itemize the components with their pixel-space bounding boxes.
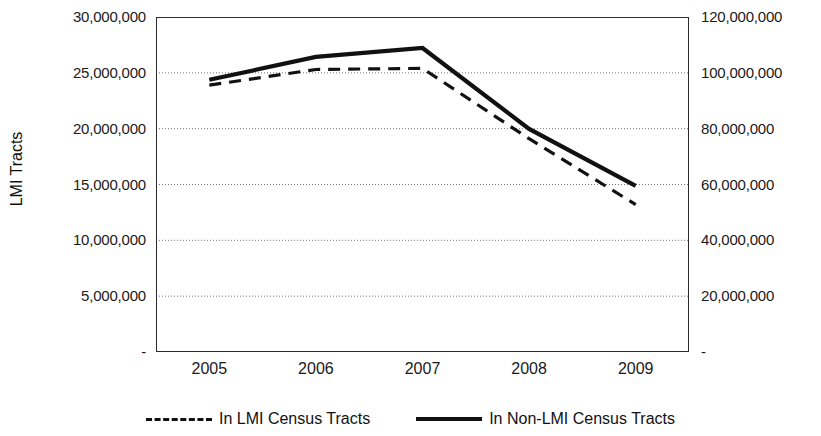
chart-legend: In LMI Census TractsIn Non-LMI Census Tr… [0,402,821,436]
x-axis-tick-label: 2009 [596,360,676,378]
y-axis-right-tick-label: 40,000,000 [701,231,774,248]
y-axis-right-tick-label: 60,000,000 [701,176,774,193]
y-axis-left-tick-label: 10,000,000 [0,231,146,248]
y-axis-left-tick-label: 25,000,000 [0,64,146,81]
y-axis-left-tick-label: 20,000,000 [0,120,146,137]
x-axis-tick-label: 2008 [489,360,569,378]
y-axis-left-tick-label: - [0,343,146,360]
legend-label: In LMI Census Tracts [219,410,370,428]
y-axis-right-tick-label: 120,000,000 [701,8,782,25]
y-axis-right-tick-label: - [701,343,706,360]
series-line [209,48,635,186]
y-axis-left-tick-label: 15,000,000 [0,176,146,193]
x-axis-tick-label: 2007 [383,360,463,378]
legend-solid-line-icon [416,412,482,426]
x-axis-tick-label: 2005 [169,360,249,378]
legend-label: In Non-LMI Census Tracts [489,410,675,428]
y-axis-right-tick-label: 80,000,000 [701,120,774,137]
y-axis-left-title: LMI Tracts [8,89,26,249]
legend-dashed-line-icon [146,412,212,426]
x-axis-tick-label: 2006 [276,360,356,378]
y-axis-right-tick-label: 100,000,000 [701,64,782,81]
legend-item[interactable]: In Non-LMI Census Tracts [416,410,675,428]
plot-area [156,17,689,352]
chart-svg [156,17,689,352]
chart-container: LMI Tracts 30,000,00025,000,00020,000,00… [0,0,821,436]
y-axis-left-tick-label: 30,000,000 [0,8,146,25]
legend-item[interactable]: In LMI Census Tracts [146,410,370,428]
y-axis-left-tick-label: 5,000,000 [0,287,146,304]
y-axis-right-tick-label: 20,000,000 [701,287,774,304]
